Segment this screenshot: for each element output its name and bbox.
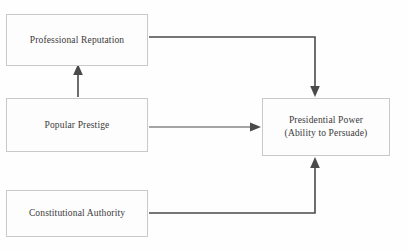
node-professional-reputation[interactable]: Professional Reputation	[6, 14, 148, 66]
node-popular-prestige-label: Popular Prestige	[45, 119, 110, 132]
node-presidential-power-label: Presidential Power	[289, 114, 363, 127]
edge-popular-prestige-to-professional-reputation	[73, 64, 83, 97]
node-constitutional-authority-label: Constitutional Authority	[29, 207, 125, 220]
node-popular-prestige[interactable]: Popular Prestige	[6, 98, 148, 152]
edge-constitutional-authority-to-presidential-power	[149, 157, 320, 213]
edge-popular-prestige-to-presidential-power	[149, 122, 261, 131]
node-constitutional-authority[interactable]: Constitutional Authority	[6, 190, 148, 237]
node-presidential-power[interactable]: Presidential Power (Ability to Persuade)	[262, 98, 390, 156]
diagram-canvas: Professional Reputation Popular Prestige…	[0, 0, 408, 250]
node-professional-reputation-label: Professional Reputation	[30, 34, 124, 47]
node-presidential-power-sublabel: (Ability to Persuade)	[285, 127, 368, 140]
edge-professional-reputation-to-presidential-power	[149, 37, 320, 97]
